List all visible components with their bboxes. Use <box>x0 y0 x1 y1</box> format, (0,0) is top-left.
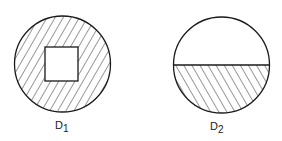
d2-label: D2 <box>210 120 224 135</box>
diagram-canvas: D1 D2 <box>0 0 282 141</box>
figure-d2: D2 <box>174 17 270 135</box>
d1-square-hole <box>45 47 78 81</box>
figure-d1: D1 <box>15 16 111 134</box>
d1-label: D1 <box>55 119 69 134</box>
